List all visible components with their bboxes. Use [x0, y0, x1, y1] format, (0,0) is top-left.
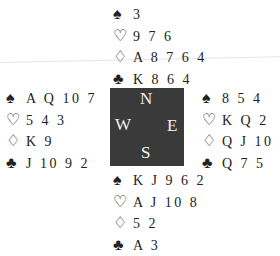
club-icon: ♣: [113, 68, 133, 90]
diamond-icon: ♢: [113, 212, 133, 234]
north-hand: ♠3 ♡9 7 6 ♢A 8 7 6 4 ♣K 8 6 4: [113, 3, 207, 89]
diamond-icon: ♢: [6, 130, 26, 152]
west-hand: ♠A Q 10 7 ♡5 4 3 ♢K 9 ♣J 10 9 2: [6, 87, 97, 173]
club-icon: ♣: [113, 234, 133, 256]
east-clubs: ♣Q 7 5: [202, 152, 280, 174]
heart-icon: ♡: [202, 109, 222, 131]
south-clubs: ♣A 3: [113, 234, 206, 256]
diamond-icon: ♢: [202, 130, 222, 152]
compass-east-label: E: [167, 116, 177, 136]
west-diamonds: ♢K 9: [6, 130, 97, 152]
heart-icon: ♡: [113, 25, 133, 47]
west-hearts: ♡5 4 3: [6, 109, 97, 131]
spade-icon: ♠: [113, 3, 133, 25]
east-spades: ♠8 5 4: [202, 87, 280, 109]
compass-west-label: W: [115, 115, 131, 135]
compass-north-label: N: [140, 89, 152, 109]
spade-icon: ♠: [6, 87, 26, 109]
east-hearts: ♡K Q 2: [202, 109, 280, 131]
south-hand: ♠K J 9 6 2 ♡A J 10 8 ♢5 2 ♣A 3: [113, 169, 206, 255]
south-diamonds: ♢5 2: [113, 212, 206, 234]
south-hearts: ♡A J 10 8: [113, 191, 206, 213]
north-clubs: ♣K 8 6 4: [113, 68, 207, 90]
south-spades: ♠K J 9 6 2: [113, 169, 206, 191]
north-hearts: ♡9 7 6: [113, 25, 207, 47]
north-diamonds: ♢A 8 7 6 4: [113, 46, 207, 68]
club-icon: ♣: [6, 152, 26, 174]
diamond-icon: ♢: [113, 46, 133, 68]
compass-box: N W E S: [110, 88, 184, 166]
north-spades: ♠3: [113, 3, 207, 25]
west-clubs: ♣J 10 9 2: [6, 152, 97, 174]
spade-icon: ♠: [202, 87, 222, 109]
spade-icon: ♠: [113, 169, 133, 191]
west-spades: ♠A Q 10 7: [6, 87, 97, 109]
east-hand: ♠8 5 4 ♡K Q 2 ♢Q J 10 3 ♣Q 7 5: [202, 87, 280, 173]
heart-icon: ♡: [113, 191, 133, 213]
compass-south-label: S: [141, 143, 150, 163]
east-diamonds: ♢Q J 10 3: [202, 130, 280, 152]
heart-icon: ♡: [6, 109, 26, 131]
